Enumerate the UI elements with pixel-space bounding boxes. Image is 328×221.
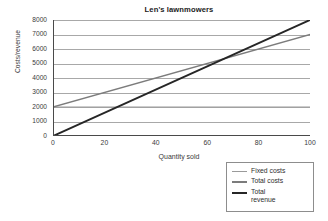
legend-line-swatch-icon xyxy=(232,181,247,182)
legend-label: Total revenue xyxy=(251,188,276,205)
legend-label: Total costs xyxy=(251,177,283,185)
x-axis-tick-label: 100 xyxy=(290,140,328,147)
legend-entry[interactable]: Total revenue xyxy=(232,188,308,205)
y-axis-tick-label: 5000 xyxy=(7,60,47,67)
x-axis-title: Quantity sold xyxy=(44,153,314,160)
chart-legend: Fixed costsTotal costsTotal revenue xyxy=(226,162,314,212)
y-axis-tick-label: 6000 xyxy=(7,46,47,53)
y-axis-tick-label: 7000 xyxy=(7,31,47,38)
legend-entry[interactable]: Total costs xyxy=(232,177,308,185)
x-axis-tick-label: 0 xyxy=(33,140,73,147)
y-axis-tick-label: 4000 xyxy=(7,75,47,82)
series-line-total-costs xyxy=(53,35,310,108)
x-axis-tick-label: 60 xyxy=(187,140,227,147)
plot-area xyxy=(53,20,310,136)
legend-label: Fixed costs xyxy=(251,167,285,175)
y-axis-tick-label: 3000 xyxy=(7,89,47,96)
y-axis-tick-label: 8000 xyxy=(7,17,47,24)
y-axis-tick-label: 1000 xyxy=(7,118,47,125)
legend-line-swatch-icon xyxy=(232,171,247,172)
x-axis-tick-label: 40 xyxy=(136,140,176,147)
chart-figure: Len's lawnmowers Costs/revenue Quantity … xyxy=(0,0,328,221)
plot-svg xyxy=(53,20,310,136)
legend-entry[interactable]: Fixed costs xyxy=(232,167,308,175)
legend-line-swatch-icon xyxy=(232,192,247,194)
chart-title: Len's lawnmowers xyxy=(44,5,314,14)
y-axis-tick-label: 0 xyxy=(7,133,47,140)
x-axis-tick-label: 20 xyxy=(84,140,124,147)
y-axis-tick-label: 2000 xyxy=(7,104,47,111)
x-axis-tick-label: 80 xyxy=(239,140,279,147)
